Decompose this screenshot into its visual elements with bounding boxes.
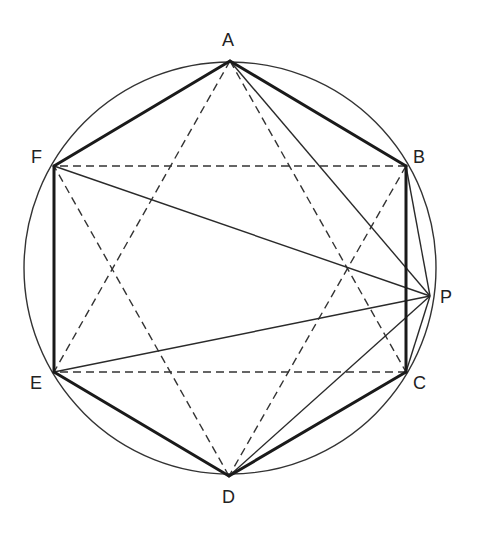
diagonal-bd [229, 166, 406, 476]
hexagon-edges [54, 61, 406, 476]
edge-fa [54, 61, 230, 166]
lines-from-p [54, 61, 430, 476]
hexagon-circle-diagram: A B C D E F P [0, 0, 480, 534]
diagonal-ae [54, 61, 230, 372]
label-f: F [31, 147, 42, 167]
segment-pe [54, 296, 430, 372]
edge-de [54, 372, 229, 476]
diagonal-df [54, 166, 229, 476]
edge-cd [229, 372, 406, 476]
edge-ab [230, 61, 406, 166]
label-b: B [413, 147, 425, 167]
circumscribed-circle [24, 62, 436, 474]
label-c: C [413, 373, 426, 393]
dashed-diagonals [54, 61, 406, 476]
label-p: P [440, 287, 452, 307]
segment-pf [54, 166, 430, 296]
label-e: E [30, 373, 42, 393]
vertex-labels: A B C D E F P [30, 30, 452, 507]
label-d: D [222, 487, 235, 507]
diagonal-ac [230, 61, 406, 372]
label-a: A [222, 30, 234, 50]
